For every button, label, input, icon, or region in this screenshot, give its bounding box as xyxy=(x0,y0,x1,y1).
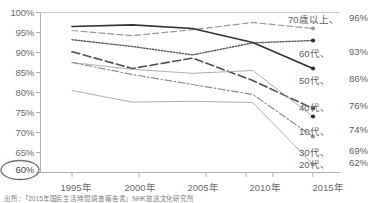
series-end-marker-0 xyxy=(311,26,315,30)
series-end-marker-4 xyxy=(311,114,315,118)
y-tick-label-85: 85% xyxy=(0,67,34,78)
x-tick-label-2015: 2015年 xyxy=(298,180,358,194)
series-end-marker-1 xyxy=(311,38,315,42)
series-line-6 xyxy=(72,91,313,165)
source-note: 出所：「2015年国民生活時間調査報告書」NHK放送文化研究所 xyxy=(4,193,194,203)
series-line-4 xyxy=(72,63,313,117)
y-tick-label-65: 65% xyxy=(0,147,34,158)
series-value-60s: 93% xyxy=(340,46,368,57)
y-tick-label-80: 80% xyxy=(0,87,34,98)
y-tick-label-90: 90% xyxy=(0,47,34,58)
series-value-40s: 76% xyxy=(340,100,368,111)
series-label-70plus: 70歳以上、 xyxy=(288,12,339,26)
x-tick-label-2000: 2000年 xyxy=(110,180,170,194)
y-tick-label-100: 100% xyxy=(0,7,34,18)
y-tick-label-70: 70% xyxy=(0,127,34,138)
series-label-10s: 10代、 xyxy=(299,124,330,138)
series-value-10s: 74% xyxy=(340,124,368,135)
y-tick-label-60: 60% xyxy=(0,164,34,175)
series-line-3 xyxy=(72,52,313,109)
series-value-50s: 86% xyxy=(340,73,368,84)
series-label-40s: 40代、 xyxy=(299,100,330,114)
series-layer xyxy=(72,23,315,167)
series-label-60s: 60代、 xyxy=(299,46,330,60)
y-tick-label-75: 75% xyxy=(0,107,34,118)
x-axis-ticks xyxy=(72,173,313,178)
chart-container: 100% 95% 90% 85% 80% 75% 70% 65% 60% 199… xyxy=(0,0,372,203)
series-value-30s: 69% xyxy=(340,145,368,156)
x-tick-label-2005: 2005年 xyxy=(173,180,233,194)
y-tick-label-95: 95% xyxy=(0,27,34,38)
x-tick-label-2010: 2010年 xyxy=(235,180,295,194)
series-value-20s: 62% xyxy=(340,157,368,168)
series-value-70plus: 96% xyxy=(340,12,368,23)
series-label-50s: 50代、 xyxy=(299,73,330,87)
x-tick-label-1995: 1995年 xyxy=(46,180,106,194)
series-label-20s: 20代、 xyxy=(299,157,330,171)
series-end-marker-2 xyxy=(311,66,315,70)
y-axis-ticks xyxy=(36,13,40,173)
